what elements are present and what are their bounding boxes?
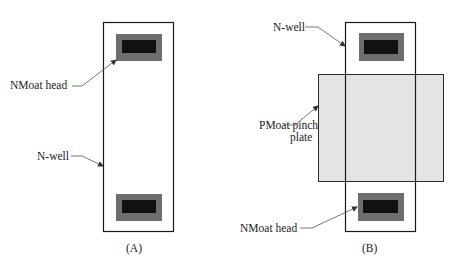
leader-n-well-b (305, 27, 345, 46)
panel-b: N-well PMoat pinch plate NMoat head (B) (240, 21, 444, 255)
leader-n-well-a (71, 156, 103, 166)
panel-a: NMoat head N-well (A) (10, 23, 174, 256)
leader-nmoat-head-b (300, 207, 357, 228)
nmoat-head-bottom-a-contact (122, 200, 156, 213)
label-n-well-b: N-well (273, 21, 305, 33)
nmoat-head-top-a-contact (122, 40, 156, 53)
label-nmoat-head-a: NMoat head (10, 79, 67, 91)
label-pmoat-pinch-line2: plate (290, 131, 312, 144)
nmoat-head-bottom-b-contact (363, 200, 398, 213)
label-n-well-a: N-well (37, 150, 69, 162)
label-nmoat-head-b: NMoat head (240, 222, 297, 234)
caption-a: (A) (126, 242, 142, 255)
nmoat-head-top-b-contact (364, 40, 398, 54)
layout-diagram: NMoat head N-well (A) N-well PMoat pinch… (0, 0, 457, 263)
pmoat-pinch-plate (319, 75, 444, 182)
caption-b: (B) (362, 242, 378, 255)
